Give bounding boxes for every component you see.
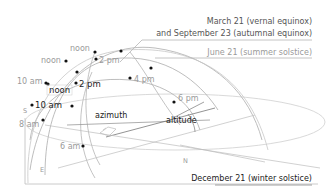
- summer-2pm-label: 2 pm: [99, 56, 120, 65]
- legend-winter: December 21 (winter solstice): [191, 174, 312, 183]
- equinox-noon-label: noon: [41, 56, 61, 65]
- legend-equinox-line1: March 21 (vernal equinox): [207, 17, 312, 26]
- sun-path-diagram: noon 2 pm 4 pm 6 pm noon 10 am 2 pm 8 am…: [0, 0, 333, 192]
- equinox-8am-label: 8 am: [19, 120, 40, 129]
- altitude-label: altitude: [166, 116, 197, 125]
- equinox-6am-label: 6 am: [60, 142, 81, 151]
- equinox-2pm-label: 2 pm: [79, 79, 101, 89]
- equinox-10am-label: 10 am: [17, 77, 43, 86]
- summer-noon-label: noon: [70, 44, 90, 53]
- winter-10am-label: 10 am: [35, 100, 62, 110]
- sky-arc: [28, 50, 268, 183]
- north-line: [180, 145, 265, 162]
- ns-line: [58, 115, 255, 168]
- hour-line-4pm: [130, 52, 180, 125]
- legend-equinox-line2: and September 23 (autumnal equinox): [156, 29, 312, 38]
- summer-path-arc: [30, 47, 262, 170]
- summer-4pm-label: 4 pm: [134, 75, 155, 84]
- compass-east: E: [40, 166, 44, 174]
- summer-6pm-label: 6 pm: [178, 94, 199, 103]
- azimuth-label: azimuth: [95, 111, 127, 120]
- hour-line-2pm: [86, 52, 100, 165]
- legend-summer: June 21 (summer solstice): [206, 48, 312, 57]
- compass-north: N: [183, 157, 188, 165]
- compass-south: S: [23, 107, 27, 115]
- winter-noon-label: noon: [49, 85, 70, 95]
